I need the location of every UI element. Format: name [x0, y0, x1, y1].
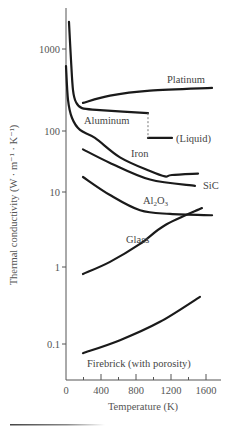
x-axis-title: Temperature (K) — [108, 401, 179, 413]
x-tick-label: 400 — [93, 385, 109, 396]
y-tick-label: 1 — [55, 262, 60, 273]
y-axis-title: Thermal conductivity (W · m⁻¹ · K⁻¹) — [8, 124, 20, 285]
curve-platinum — [83, 88, 212, 103]
x-axis-ticks: 040080012001600 — [63, 374, 216, 396]
label-al2o3: Al2O3 — [143, 195, 169, 208]
label-glass: Glass — [126, 234, 149, 245]
label-aluminum: Aluminum — [84, 115, 130, 126]
y-tick-label: 1000 — [39, 44, 60, 55]
curve-aluminum — [69, 22, 148, 113]
thermal-conductivity-chart: 10001001010.1 040080012001600 Platinum A… — [0, 0, 233, 430]
label-firebrick: Firebrick (with porosity) — [87, 358, 191, 370]
curve-firebrick-with-porosity — [83, 297, 200, 353]
bottom-rule-divider — [10, 424, 105, 426]
x-tick-label: 800 — [128, 385, 144, 396]
label-platinum: Platinum — [167, 74, 205, 85]
label-iron: Iron — [131, 148, 149, 159]
x-tick-label: 1200 — [161, 385, 182, 396]
label-liquid: (Liquid) — [176, 133, 211, 145]
x-tick-label: 0 — [63, 385, 68, 396]
y-tick-label: 100 — [44, 126, 60, 137]
y-tick-label: 0.1 — [47, 339, 60, 350]
series-curves — [66, 22, 212, 353]
x-tick-label: 1600 — [196, 385, 217, 396]
label-sic: SiC — [203, 180, 219, 191]
y-axis-ticks: 10001001010.1 — [39, 44, 66, 350]
y-tick-label: 10 — [50, 187, 61, 198]
